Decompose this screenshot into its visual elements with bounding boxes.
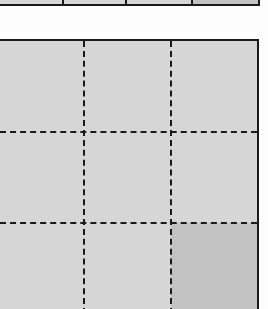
strip-cell [0, 0, 64, 4]
grid-cell [0, 223, 84, 309]
grid-cell [84, 223, 171, 309]
grid-cell [0, 41, 84, 132]
strip-cell [64, 0, 128, 4]
dashed-divider-vertical [83, 41, 85, 309]
dashed-divider-horizontal [0, 131, 257, 133]
strip-cell [127, 0, 193, 4]
strip-cell [193, 0, 258, 4]
top-strip [0, 0, 260, 6]
grid-cell [171, 223, 257, 309]
grid-cell [0, 132, 84, 223]
diagram-canvas [0, 0, 268, 309]
cell-grid [0, 39, 259, 309]
dashed-divider-vertical [170, 41, 172, 309]
grid-cell [171, 41, 257, 132]
grid-cell [84, 41, 171, 132]
grid-cell [171, 132, 257, 223]
grid-cell [84, 132, 171, 223]
dashed-divider-horizontal [0, 222, 257, 224]
